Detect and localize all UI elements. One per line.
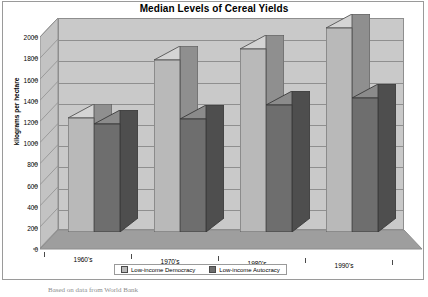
y-tick-mark-1800 (33, 58, 38, 59)
bar-1990s-autocracy (352, 84, 396, 232)
plot-area (40, 18, 424, 258)
figure-caption: Based on data from World Bank (48, 286, 418, 294)
x-tick-mark-2 (218, 256, 219, 261)
y-tick-mark-1600 (33, 79, 38, 80)
y-tick-mark-1200 (33, 122, 38, 123)
y-tick-mark-200 (33, 228, 38, 229)
legend-label-democracy: Low-income Democracy (131, 267, 195, 273)
y-axis-title: kilograms per hectare (13, 52, 20, 172)
chart-title: Median Levels of Cereal Yields (0, 3, 428, 14)
legend-item-democracy[interactable]: Low-income Democracy (121, 266, 195, 273)
bar-1980s-autocracy (266, 91, 310, 232)
left-wall-surface (40, 18, 60, 250)
x-tick-mark-1 (131, 254, 132, 259)
legend-swatch-icon-democracy (121, 266, 128, 273)
legend-label-autocracy: Low-income Autocracy (219, 267, 279, 273)
x-tick-label-1960s: 1960's (58, 256, 108, 263)
y-tick-mark-600 (33, 185, 38, 186)
bar-1960s-autocracy (94, 110, 138, 232)
y-tick-mark-1400 (33, 100, 38, 101)
legend-item-autocracy[interactable]: Low-income Autocracy (209, 266, 279, 273)
x-tick-label-1990s: 1990's (319, 262, 369, 269)
x-tick-mark-0 (44, 252, 45, 257)
y-tick-mark-800 (33, 164, 38, 165)
x-tick-mark-3 (305, 258, 306, 263)
bar-1970s-autocracy (180, 105, 224, 232)
legend-swatch-icon-autocracy (209, 266, 216, 273)
y-tick-mark-1000 (33, 143, 38, 144)
x-tick-mark-4 (392, 260, 393, 265)
y-tick-mark-2000 (33, 37, 38, 38)
y-tick-mark-400 (33, 206, 38, 207)
chart-legend: Low-income Democracy Low-income Autocrac… (114, 264, 287, 275)
y-tick-mark-0 (33, 249, 38, 250)
